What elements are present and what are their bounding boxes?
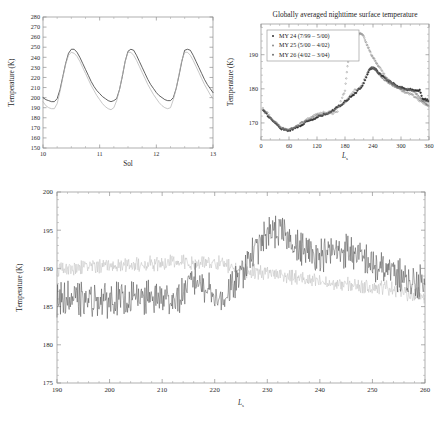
y-tick-label: 180 (43, 341, 54, 348)
data-point (370, 51, 372, 53)
data-point (335, 111, 337, 113)
diurnal-sol-chart: 1501601701801902002102202302402502602702… (0, 0, 222, 172)
seasonal-ls-chart: Globally averaged nighttime surface temp… (221, 0, 443, 172)
x-tick-label: 180 (340, 142, 349, 149)
data-point (353, 94, 355, 96)
data-point (267, 114, 269, 116)
data-point (343, 93, 345, 95)
legend-marker-1 (272, 44, 274, 46)
y-tick-label: 150 (31, 144, 40, 151)
y-tick-label: 250 (31, 43, 40, 50)
x-tick-label: 220 (210, 386, 221, 393)
data-point (315, 115, 317, 117)
x-tick-label: 300 (396, 142, 405, 149)
series-dark-curve (43, 49, 213, 101)
data-point (418, 96, 420, 98)
data-point (289, 129, 291, 131)
data-point (355, 92, 357, 94)
y-tick-label: 170 (31, 124, 40, 131)
data-point (424, 98, 426, 100)
data-point (408, 92, 410, 94)
data-point (377, 64, 379, 66)
legend-marker-2 (272, 54, 274, 56)
x-tick-label: 0 (259, 142, 262, 149)
x-axis-title: Sol (123, 160, 133, 168)
data-point (364, 39, 366, 41)
data-point (427, 100, 429, 102)
x-tick-label: 12 (153, 150, 159, 157)
data-point (351, 93, 353, 95)
y-axis-title: Temperature (K) (16, 263, 24, 312)
data-point (337, 111, 339, 113)
panel-dust-storm-zoom: 1751801851901952001902002102202302402502… (0, 170, 443, 429)
panel-title: Globally averaged nighttime surface temp… (273, 10, 419, 19)
y-tick-label: 210 (31, 84, 40, 91)
plot-frame (57, 192, 425, 383)
x-tick-label: 13 (210, 150, 216, 157)
data-point (365, 42, 367, 44)
x-tick-label: 240 (315, 386, 326, 393)
data-point (382, 70, 384, 72)
data-point (345, 83, 347, 85)
data-point (367, 72, 369, 74)
data-point (312, 116, 314, 118)
data-point (297, 126, 299, 128)
legend-label-1: MY 25 (5/00 – 4/02) (279, 42, 330, 49)
data-point (317, 116, 319, 118)
x-tick-label: 60 (286, 142, 292, 149)
x-tick-label: 10 (40, 150, 46, 157)
data-point (420, 92, 422, 94)
y-tick-label: 270 (31, 23, 40, 30)
y-axis-title: Temperature (K) (227, 57, 235, 106)
plot-area-diurnal: 1501601701801902002102202302402502602702… (8, 13, 216, 168)
figure-container: 1501601701801902002102202302402502602702… (0, 0, 443, 429)
data-point (321, 112, 323, 114)
data-point (380, 67, 382, 69)
data-point (348, 97, 350, 99)
y-tick-label: 180 (249, 85, 258, 92)
data-point (334, 112, 336, 114)
legend-label-0: MY 24 (7/99 – 5/00) (279, 33, 330, 40)
panel-diurnal-sol: 1501601701801902002102202302402502602702… (0, 0, 222, 172)
data-point (313, 114, 315, 116)
data-point (347, 61, 349, 63)
y-tick-label: 180 (31, 114, 40, 121)
data-point (314, 117, 316, 119)
data-point (318, 113, 320, 115)
data-point (336, 108, 338, 110)
y-tick-label: 160 (31, 134, 40, 141)
legend-marker-0 (272, 35, 274, 37)
y-tick-label: 190 (43, 265, 54, 272)
data-point (363, 35, 365, 37)
data-point (353, 91, 355, 93)
x-axis-title: Ls (341, 152, 348, 161)
x-tick-label: 360 (424, 142, 433, 149)
y-tick-label: 200 (43, 188, 54, 195)
y-tick-label: 195 (43, 227, 54, 234)
y-tick-label: 170 (249, 119, 258, 126)
data-point (323, 111, 325, 113)
data-point (412, 94, 414, 96)
x-tick-label: 240 (368, 142, 377, 149)
series-light-curve (43, 52, 213, 109)
data-point (301, 121, 303, 123)
x-tick-label: 11 (97, 150, 103, 157)
data-point (414, 92, 416, 94)
data-point (332, 113, 334, 115)
data-point (320, 112, 322, 114)
y-tick-label: 185 (43, 303, 54, 310)
data-point (347, 65, 349, 67)
x-tick-label: 200 (104, 386, 115, 393)
data-point (292, 128, 294, 130)
data-point (307, 118, 309, 120)
y-tick-label: 260 (31, 33, 40, 40)
y-tick-label: 220 (31, 74, 40, 81)
y-axis-title: Temperature (K) (8, 58, 16, 107)
y-tick-label: 240 (31, 54, 40, 61)
x-axis-title: Ls (237, 399, 244, 408)
panel-seasonal-ls: Globally averaged nighttime surface temp… (221, 0, 443, 172)
y-tick-label: 200 (31, 94, 40, 101)
legend-label-2: MY 26 (4/02 – 3/04) (279, 52, 330, 59)
x-tick-label: 230 (262, 386, 273, 393)
data-point (344, 90, 346, 92)
